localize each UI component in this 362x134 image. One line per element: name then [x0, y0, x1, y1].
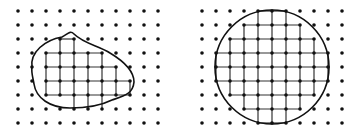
lattice-dot — [340, 93, 344, 97]
lattice-dot — [156, 65, 160, 69]
lattice-dot — [270, 93, 274, 97]
lattice-dot — [142, 107, 146, 111]
lattice-dot — [200, 51, 204, 55]
lattice-dot — [326, 9, 330, 13]
lattice-dot — [16, 9, 20, 13]
lattice-dot — [72, 79, 76, 83]
lattice-dot — [114, 65, 118, 69]
lattice-dot — [242, 65, 246, 69]
lattice-dot — [326, 93, 330, 97]
lattice-dot — [340, 121, 344, 125]
lattice-dot — [16, 51, 20, 55]
lattice-dot — [242, 37, 246, 41]
lattice-dot — [242, 93, 246, 97]
lattice-dot — [44, 9, 48, 13]
lattice-dot — [340, 9, 344, 13]
lattice-dot — [30, 93, 34, 97]
lattice-dot — [30, 51, 34, 55]
lattice-dot — [100, 9, 104, 13]
lattice-dot — [100, 65, 104, 69]
lattice-dot — [200, 9, 204, 13]
lattice-dot — [100, 107, 104, 111]
lattice-dot — [72, 23, 76, 27]
lattice-dot — [156, 107, 160, 111]
lattice-dot — [114, 93, 118, 97]
lattice-dot — [312, 51, 316, 55]
lattice-dot — [228, 79, 232, 83]
lattice-dot — [86, 121, 90, 125]
lattice-dot — [298, 65, 302, 69]
lattice-dot — [128, 51, 132, 55]
region-boundary — [32, 32, 134, 108]
lattice-dot — [156, 93, 160, 97]
lattice-dot — [86, 65, 90, 69]
lattice-dot — [16, 23, 20, 27]
lattice-dot — [114, 37, 118, 41]
lattice-dot — [312, 9, 316, 13]
lattice-dot — [200, 107, 204, 111]
lattice-dot — [270, 51, 274, 55]
lattice-dot — [270, 65, 274, 69]
lattice-dot — [86, 37, 90, 41]
lattice-dot — [44, 93, 48, 97]
lattice-dot — [72, 65, 76, 69]
lattice-dot — [284, 93, 288, 97]
lattice-dot — [100, 121, 104, 125]
lattice-dot — [242, 23, 246, 27]
lattice-dot — [58, 51, 62, 55]
lattice-dot — [72, 9, 76, 13]
lattice-dot — [86, 23, 90, 27]
lattice-dot — [200, 79, 204, 83]
lattice-dot — [200, 23, 204, 27]
lattice-dot — [72, 51, 76, 55]
lattice-dot — [256, 51, 260, 55]
lattice-dot — [16, 93, 20, 97]
lattice-dot — [142, 37, 146, 41]
lattice-dot — [142, 23, 146, 27]
lattice-dot — [142, 93, 146, 97]
lattice-dot — [16, 107, 20, 111]
lattice-dot — [86, 93, 90, 97]
lattice-dot — [298, 23, 302, 27]
lattice-dot — [228, 9, 232, 13]
lattice-dot — [142, 65, 146, 69]
lattice-dot — [72, 93, 76, 97]
lattice-dot — [284, 107, 288, 111]
lattice-dot — [312, 79, 316, 83]
lattice-dot — [256, 93, 260, 97]
lattice-dot — [72, 37, 76, 41]
lattice-dot — [200, 65, 204, 69]
lattice-dot — [114, 79, 118, 83]
lattice-dot — [16, 65, 20, 69]
lattice-dot — [270, 107, 274, 111]
lattice-dot — [200, 121, 204, 125]
lattice-dot — [242, 51, 246, 55]
lattice-dot — [16, 121, 20, 125]
lattice-dot — [142, 121, 146, 125]
lattice-dot — [200, 93, 204, 97]
lattice-dot — [340, 65, 344, 69]
lattice-dot — [326, 37, 330, 41]
lattice-dot — [256, 79, 260, 83]
lattice-dot — [214, 37, 218, 41]
lattice-dot — [270, 79, 274, 83]
lattice-dot — [30, 37, 34, 41]
lattice-dot — [312, 93, 316, 97]
lattice-dot — [44, 79, 48, 83]
lattice-dot — [228, 121, 232, 125]
lattice-dot — [284, 23, 288, 27]
lattice-dot — [242, 121, 246, 125]
lattice-dot — [200, 37, 204, 41]
lattice-dot — [86, 9, 90, 13]
lattice-dot — [156, 51, 160, 55]
lattice-dot — [214, 93, 218, 97]
lattice-dot — [156, 79, 160, 83]
lattice-dot — [284, 51, 288, 55]
lattice-dot — [100, 79, 104, 83]
lattice-dot — [270, 23, 274, 27]
lattice-dot — [298, 37, 302, 41]
lattice-dot — [256, 107, 260, 111]
lattice-dot — [298, 107, 302, 111]
lattice-dot — [114, 107, 118, 111]
lattice-dot — [86, 51, 90, 55]
